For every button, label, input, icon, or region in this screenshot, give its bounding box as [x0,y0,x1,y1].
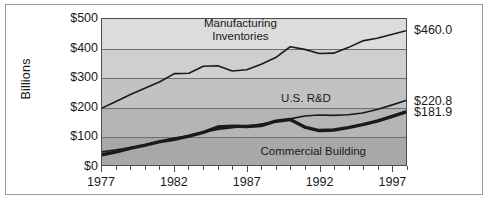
x-axis-minor-tick [232,166,233,170]
x-axis-minor-tick [261,166,262,170]
x-axis-tick-label: 1992 [306,175,334,189]
y-axis-title: Billions [19,31,33,127]
x-axis-minor-tick [188,166,189,170]
x-axis-major-tick [101,166,102,172]
x-axis-minor-tick [203,166,204,170]
x-axis-major-tick [174,166,175,172]
x-axis-minor-tick [218,166,219,170]
y-axis-tick-label: $500 [70,11,98,25]
x-axis-minor-tick [407,166,408,170]
end-value-label: $460.0 [414,23,452,37]
series-label-manufacturing-line2: Inventories [212,29,268,41]
chart-root: Billions $0$100$200$300$400$500 Manufact… [0,0,489,201]
x-axis-tick-label: 1987 [233,175,261,189]
y-axis-tick-label: $100 [70,129,98,143]
series-label-commercial-building: Commercial Building [261,144,366,157]
x-axis-minor-tick [349,166,350,170]
end-value-labels: $460.0$220.8$181.9 [414,0,489,201]
x-axis-tick-label: 1982 [160,175,188,189]
x-axis-minor-tick [145,166,146,170]
y-axis-tick-label: $400 [70,41,98,55]
x-axis-minor-tick [276,166,277,170]
x-axis-major-tick [392,166,393,172]
x-axis-minor-tick [363,166,364,170]
plot-area: Manufacturing Inventories U.S. R&D Comme… [101,18,407,166]
series-label-manufacturing-line1: Manufacturing [204,18,277,29]
x-axis-minor-tick [305,166,306,170]
y-axis-tick-labels: $0$100$200$300$400$500 [40,0,98,201]
end-value-label: $181.9 [414,105,452,119]
x-axis-tick-label: 1997 [379,175,407,189]
x-axis-major-tick [247,166,248,172]
series-label-us-rd: U.S. R&D [281,92,331,105]
x-axis-minor-tick [334,166,335,170]
y-axis-tick-label: $300 [70,70,98,84]
x-axis-minor-tick [130,166,131,170]
x-axis-minor-tick [159,166,160,170]
x-axis-tick-label: 1977 [87,175,115,189]
x-axis: 19771982198719921997 [101,166,407,200]
x-axis-minor-tick [116,166,117,170]
x-axis-minor-tick [378,166,379,170]
x-axis-minor-tick [290,166,291,170]
y-axis-tick-label: $200 [70,100,98,114]
x-axis-major-tick [320,166,321,172]
y-axis-tick-label: $0 [84,159,98,173]
series-line [102,31,406,108]
series-label-manufacturing: Manufacturing Inventories [204,18,277,42]
